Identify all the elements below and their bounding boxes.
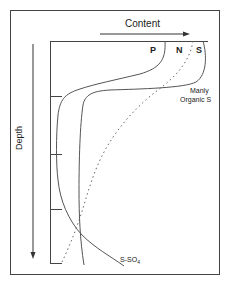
content-arrow-icon bbox=[100, 32, 190, 37]
annotation-sulfate-main: S-SO bbox=[120, 256, 138, 263]
label-n: N bbox=[176, 45, 183, 55]
depth-arrow-icon bbox=[31, 44, 36, 259]
depth-ticks bbox=[50, 97, 62, 264]
nutrient-depth-diagram: Content Depth P N S Manly Organic S S-SO… bbox=[0, 0, 230, 286]
annotation-sulfate: S-SO4 bbox=[120, 256, 140, 265]
label-p: P bbox=[150, 45, 156, 55]
annotation-sulfate-subscript: 4 bbox=[137, 259, 140, 265]
annotation-organic-line1: Manly bbox=[190, 87, 209, 95]
annotation-organic-line2: Organic S bbox=[180, 96, 211, 104]
label-s: S bbox=[196, 45, 202, 55]
depth-axis-label: Depth bbox=[14, 126, 24, 150]
curve-s bbox=[79, 41, 205, 265]
content-axis-label: Content bbox=[125, 18, 160, 29]
curve-p bbox=[57, 41, 166, 266]
outer-frame bbox=[11, 11, 220, 275]
curve-n bbox=[62, 41, 193, 262]
